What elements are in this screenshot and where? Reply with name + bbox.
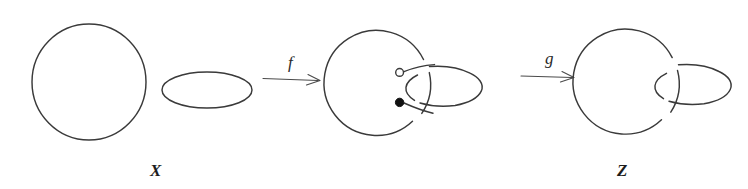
object-y-group <box>324 30 482 135</box>
object-z-group <box>573 29 731 134</box>
map-label-f: f <box>288 54 293 71</box>
z-circle-stub <box>671 70 679 112</box>
object-x-group <box>32 24 252 140</box>
diagram-canvas <box>0 0 748 189</box>
x-circle-large <box>32 24 146 140</box>
y-open-arc-upper <box>404 65 435 72</box>
z-circle <box>573 29 672 134</box>
topology-diagram: X Z f g <box>0 0 748 189</box>
map-f-arrow-shaft <box>263 79 318 81</box>
y-basepoint-hollow-dot <box>396 69 404 77</box>
object-label-z: Z <box>617 162 627 179</box>
y-basepoint-filled-dot <box>395 98 403 106</box>
y-circle-stub <box>422 73 431 114</box>
y-ellipse-lower <box>406 75 418 100</box>
y-circle-main <box>324 30 423 135</box>
map-label-g: g <box>545 50 554 67</box>
x-ellipse-small <box>162 72 252 108</box>
map-f-arrow <box>263 75 320 86</box>
z-ellipse-outer <box>669 65 731 105</box>
map-g-arrow-shaft <box>521 76 572 78</box>
z-ellipse-inner <box>655 73 667 98</box>
object-label-x: X <box>150 162 161 179</box>
map-g-arrow <box>521 72 574 83</box>
